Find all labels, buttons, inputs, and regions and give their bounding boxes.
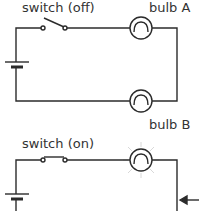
- arrow-left-icon: [180, 196, 199, 204]
- switch-on-label: switch (on): [22, 137, 94, 150]
- wire-right-2: [152, 160, 177, 211]
- switch-contact-left: [41, 26, 45, 30]
- bulb-lit-icon: [130, 149, 152, 171]
- bulb-b-label: bulb B: [149, 118, 190, 131]
- bulb-b-icon: [130, 90, 152, 112]
- wire-top-left: [16, 28, 43, 62]
- switch-contact-left-2: [41, 158, 45, 162]
- switch-contact-right-2: [63, 158, 67, 162]
- bulb-a-label: bulb A: [149, 1, 190, 14]
- circuit-off: [5, 17, 177, 112]
- switch-off-label: switch (off): [22, 1, 95, 14]
- circuit-diagram: [0, 0, 199, 211]
- wire-top-left-2: [16, 160, 43, 194]
- wire-bottom-left: [16, 67, 130, 101]
- bulb-a-icon: [130, 17, 152, 39]
- circuit-on: [5, 142, 199, 211]
- wire-right: [152, 28, 177, 101]
- switch-lever-open: [44, 18, 64, 27]
